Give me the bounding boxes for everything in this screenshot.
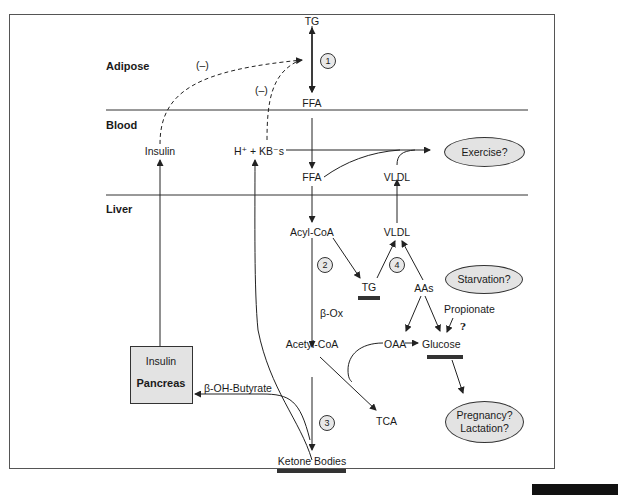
node-acyl-coa: Acyl-CoA	[290, 226, 334, 238]
pancreas-box: Insulin Pancreas	[130, 346, 193, 404]
node-acetyl-coa: Acetyl-CoA	[286, 338, 339, 350]
diagram-lines	[0, 0, 618, 495]
node-vldl-blood: VLDL	[384, 171, 410, 183]
inhibition-label-kb: (–)	[255, 84, 268, 96]
node-oaa: OAA	[384, 338, 406, 350]
node-ketone-bodies: Ketone Bodies	[278, 455, 346, 467]
step-2-badge: 2	[317, 257, 333, 273]
node-ffa-blood: FFA	[302, 171, 321, 183]
region-blood: Blood	[106, 119, 137, 131]
metabolism-diagram: Adipose Blood Liver TG FFA 1 (–) (–) Ins…	[0, 0, 618, 495]
glucose-highlight-bar	[427, 355, 463, 359]
tg-highlight-bar	[358, 296, 380, 300]
ellipse-pregnancy-lactation: Pregnancy? Lactation?	[445, 401, 524, 443]
ellipse-starvation: Starvation?	[445, 265, 523, 294]
region-liver: Liver	[106, 203, 132, 215]
region-adipose: Adipose	[106, 60, 149, 72]
node-tg-adipose: TG	[305, 15, 320, 27]
node-question: ?	[460, 321, 466, 333]
node-vldl-liver: VLDL	[384, 226, 410, 238]
frame	[10, 15, 555, 469]
node-beta-ox: β-Ox	[320, 307, 343, 319]
node-beta-oh-butyrate: β-OH-Butyrate	[204, 382, 272, 394]
footer-bar	[532, 484, 618, 495]
ellipse-exercise: Exercise?	[444, 137, 525, 167]
step-4-badge: 4	[389, 257, 405, 273]
ellipse-pregnancy-label: Pregnancy?	[456, 409, 512, 422]
pancreas-organ-label: Pancreas	[137, 377, 186, 389]
step-3-badge: 3	[319, 415, 335, 431]
ellipse-lactation-label: Lactation?	[460, 422, 508, 435]
node-tg-liver: TG	[362, 281, 377, 293]
node-ffa-adipose: FFA	[302, 97, 321, 109]
node-tca: TCA	[376, 415, 397, 427]
node-h-kb: H⁺ + KB⁻s	[234, 145, 284, 157]
node-propionate: Propionate	[444, 303, 495, 315]
node-aas: AAs	[414, 282, 433, 294]
step-1-badge: 1	[320, 53, 336, 69]
node-insulin: Insulin	[145, 145, 175, 157]
ketone-highlight-bar	[277, 469, 346, 473]
inhibition-label-insulin: (–)	[196, 59, 209, 71]
pancreas-hormone-label: Insulin	[146, 355, 176, 367]
node-glucose: Glucose	[422, 338, 461, 350]
